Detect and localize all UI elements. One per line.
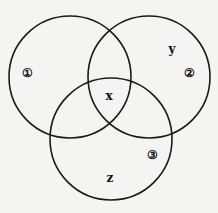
circle-1-label: ① (22, 66, 33, 80)
region-label-x: x (105, 89, 113, 103)
venn-diagram: ① ② ③ y x z (0, 0, 218, 213)
circle-2-label: ② (184, 66, 195, 80)
region-label-y: y (168, 42, 177, 56)
region-label-z: z (107, 171, 114, 185)
circle-3-label: ③ (147, 148, 158, 162)
